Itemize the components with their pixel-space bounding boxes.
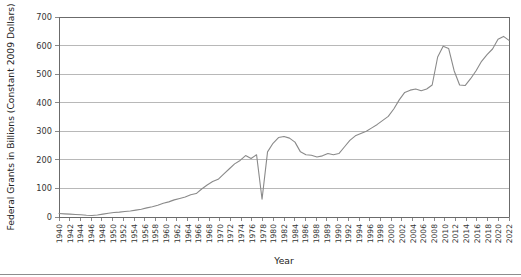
x-tick-label: 1962 (173, 224, 182, 243)
x-tick-label: 2012 (451, 224, 460, 243)
y-tick-label: 300 (36, 126, 52, 136)
x-tick-label: 1942 (66, 224, 75, 243)
y-tick-label: 400 (36, 98, 52, 108)
x-tick-label: 1980 (269, 224, 278, 243)
y-tick-label: 600 (36, 41, 52, 51)
x-tick-label: 1982 (280, 224, 289, 243)
x-tick-label: 1984 (291, 224, 300, 243)
x-tick-label: 2018 (484, 224, 493, 243)
x-tick-label: 2008 (430, 224, 439, 243)
x-tick-label: 2010 (441, 224, 450, 243)
x-tick-label: 2006 (419, 224, 428, 243)
x-tick-label: 1970 (216, 224, 225, 243)
x-tick-label: 2022 (505, 224, 514, 243)
y-tick-label: 500 (36, 69, 52, 79)
x-tick-label: 1944 (76, 224, 85, 243)
x-tick-label: 1948 (98, 224, 107, 243)
x-tick-label: 1954 (130, 224, 139, 243)
x-tick-label: 2004 (409, 224, 418, 243)
x-tick-label: 1998 (376, 224, 385, 243)
x-tick-label: 2002 (398, 224, 407, 243)
x-tick-label: 1992 (344, 224, 353, 243)
x-tick-label: 1994 (355, 224, 364, 243)
y-tick-label: 700 (36, 12, 52, 22)
x-tick-label: 1966 (194, 224, 203, 243)
x-tick-label: 1988 (312, 224, 321, 243)
y-axis-title: Federal Grants in Billions (Constant 200… (5, 3, 16, 230)
x-tick-label: 2000 (387, 224, 396, 243)
x-tick-label: 1950 (109, 224, 118, 243)
y-tick-label: 0 (47, 212, 52, 222)
x-tick-label: 1978 (259, 224, 268, 243)
y-tick-label: 100 (36, 183, 52, 193)
x-tick-label: 1964 (184, 224, 193, 243)
y-axis-ticks: 0100200300400500600700 (36, 12, 59, 222)
federal-grants-line-chart: 0100200300400500600700 19401942194419461… (0, 0, 521, 277)
x-tick-label: 1972 (226, 224, 235, 243)
x-tick-label: 1996 (366, 224, 375, 243)
x-axis-ticks: 1940194219441946194819501952195419561958… (55, 217, 514, 243)
y-tick-label: 200 (36, 155, 52, 165)
x-tick-label: 1986 (301, 224, 310, 243)
x-tick-label: 1952 (119, 224, 128, 243)
x-tick-label: 1989 (323, 224, 332, 243)
plot-background (59, 17, 509, 217)
x-axis-title: Year (273, 255, 294, 266)
x-tick-label: 2020 (494, 224, 503, 243)
x-tick-label: 2014 (462, 224, 471, 243)
x-tick-label: 1990 (334, 224, 343, 243)
x-tick-label: 1974 (237, 224, 246, 243)
x-tick-label: 1946 (87, 224, 96, 243)
x-tick-label: 1958 (151, 224, 160, 243)
chart-canvas: 0100200300400500600700 19401942194419461… (0, 0, 521, 277)
x-tick-label: 1968 (205, 224, 214, 243)
x-tick-label: 2016 (473, 224, 482, 243)
x-tick-label: 1956 (141, 224, 150, 243)
x-tick-label: 1960 (162, 224, 171, 243)
x-tick-label: 1976 (248, 224, 257, 243)
x-tick-label: 1940 (55, 224, 64, 243)
